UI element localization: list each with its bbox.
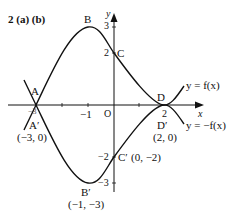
y-axis-label: y	[106, 9, 110, 19]
point-c-prime-coord: (0, −2)	[131, 152, 161, 163]
point-d-label: D	[157, 92, 165, 103]
point-c-prime-label: C′	[118, 152, 128, 163]
point-b-prime-label: B′	[81, 187, 91, 198]
point-d-prime-label: D′	[157, 120, 167, 131]
question-title: 2 (a) (b)	[8, 14, 45, 25]
x-tick-label-neg3: −3	[28, 108, 37, 116]
point-b-prime-coord: (−1, −3)	[68, 199, 104, 210]
y-axis-arrow-icon	[111, 13, 118, 22]
point-d-prime-coord: (2, 0)	[153, 132, 177, 143]
y-tick-label-2: 2	[104, 48, 109, 58]
origin-label: O	[104, 109, 111, 119]
point-b-label: B	[84, 14, 91, 25]
point-a-prime-label: A′	[29, 120, 39, 131]
x-axis-label: x	[198, 109, 202, 119]
y-tick-label-3: 3	[104, 21, 109, 31]
point-a-prime-coord: (−3, 0)	[17, 132, 47, 143]
y-tick-label-neg3: −3	[98, 178, 109, 188]
curve-f-label: y = f(x)	[186, 80, 220, 91]
point-a-label: A	[31, 86, 39, 97]
x-tick-label-2: 2	[162, 109, 167, 119]
x-tick-label-neg1: −1	[80, 109, 92, 120]
curve-neg-f-label: y = −f(x)	[186, 120, 226, 131]
y-tick-label-neg2: −2	[98, 152, 109, 162]
point-c-label: C	[117, 48, 124, 59]
